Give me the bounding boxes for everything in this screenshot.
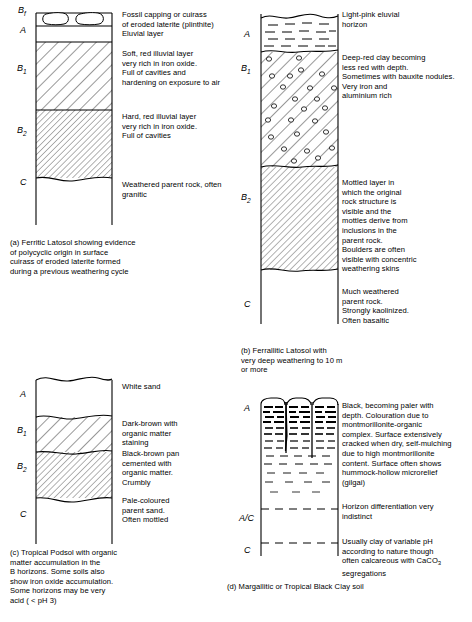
panel-c-horizon-label-c: C — [20, 510, 27, 519]
panel-c-horizon-label-b2: B2 — [17, 462, 27, 474]
panel-b-annotation-1: Light-pink eluvial horizon — [342, 10, 399, 29]
panel-b-horizon-label-c: C — [244, 300, 251, 309]
panel-d-horizon-label-ac: A/C — [239, 514, 254, 523]
panel-c-annotation-1: White sand — [122, 382, 161, 392]
panel-b-eluvial-dashes — [264, 23, 336, 46]
panel-a-horizon-label-c: C — [20, 178, 27, 187]
panel-a-annotation-2: Soft, red illuvial layer very rich in ir… — [122, 49, 220, 87]
panel-d-annotation-3-line3: often calcareous with CaCO — [342, 556, 438, 565]
panel-d-horizon-label-a: A — [244, 404, 250, 413]
panel-d-annotation-1: Black, becoming paler with depth. Colour… — [342, 401, 451, 487]
panel-d-horizon-label-c: C — [244, 546, 251, 555]
panel-c-caption: (c) Tropical Podsol with organic matter … — [10, 548, 230, 606]
panel-a-annotation-1: Fossil capping or cuirass of eroded late… — [122, 10, 214, 39]
panel-d-annotation-3-line4: segregations — [342, 569, 386, 578]
panel-d-annotation-3-line1: Usually clay of variable pH — [342, 537, 433, 546]
gilgai-hummocks — [261, 398, 338, 405]
panel-d-annotation-3: Usually clay of variable pH according to… — [342, 537, 470, 578]
panel-b-profile-column — [254, 6, 349, 346]
panel-a-caption: (a) Ferritic Latosol showing evidence of… — [10, 238, 230, 276]
panel-a-horizon-label-bf: Bf — [18, 6, 26, 18]
panel-c-annotation-3: Black-brown pan cemented with organic ma… — [122, 449, 179, 487]
plinthite-blob-2 — [76, 13, 104, 25]
panel-d-annotation-2: Horizon differentiation very indistinct — [342, 502, 434, 521]
panel-c-annotation-2: Dark-brown with organic matter staining — [122, 419, 178, 448]
panel-b-annotation-3: Mottled layer in which the original rock… — [342, 178, 417, 274]
panel-a-annotation-3: Hard, red illuvial layer very rich in ir… — [122, 112, 197, 141]
panel-b-horizon-label-b2: B2 — [241, 193, 251, 205]
panel-b-caption: (b) Ferrallitic Latosol with very deep w… — [241, 346, 466, 375]
panel-b-horizon-label-a: A — [244, 30, 250, 39]
panel-c-annotation-4: Pale-coloured parent sand. Often mottled — [122, 496, 170, 525]
panel-a-annotation-4: Weathered parent rock, often granitic — [122, 180, 222, 199]
panel-a-ferritic-latosol: Bf A B1 B2 C Fossil capping or cuirass o… — [0, 0, 236, 290]
panel-b-annotation-2: Deep-red clay becoming less red with dep… — [342, 53, 455, 101]
panel-d-caption: (d) Margallitic or Tropical Black Clay s… — [227, 582, 472, 592]
panel-b-annotation-4: Much weathered parent rock. Strongly kao… — [342, 287, 409, 325]
panel-c-horizon-label-a: A — [20, 390, 26, 399]
panel-d-annotation-3-line2: according to nature though — [342, 547, 434, 556]
caco3-subscript: 3 — [438, 560, 441, 566]
panel-d-margallitic-black-clay: A A/C C Black, becoming paler with depth… — [236, 390, 472, 622]
panel-a-profile-column — [30, 6, 120, 231]
panel-c-tropical-podsol: A B1 B2 C White sand Dark-brown with org… — [0, 368, 236, 622]
panel-b-ferrallitic-latosol: A B1 B2 C Light-pink eluvial horizon Dee… — [236, 0, 472, 385]
plinthite-blob-1 — [43, 13, 69, 25]
panel-b-horizon-label-b1: B1 — [241, 64, 251, 76]
panel-c-profile-column — [30, 372, 120, 552]
panel-c-horizon-label-b1: B1 — [17, 426, 27, 438]
panel-d-profile-column — [254, 396, 349, 571]
panel-a-horizon-label-b1: B1 — [17, 64, 27, 76]
panel-a-horizon-label-a: A — [20, 26, 26, 35]
panel-d-montmorillonite-dashes — [263, 407, 336, 492]
panel-a-horizon-label-b2: B2 — [17, 126, 27, 138]
